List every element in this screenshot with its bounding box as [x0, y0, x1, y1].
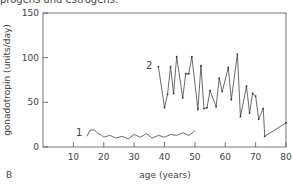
series-annotation: 2 [146, 60, 152, 71]
data-point [255, 95, 257, 97]
x-tick-label: 40 [159, 152, 171, 162]
data-point [188, 73, 190, 75]
data-point [185, 73, 187, 75]
x-tick-label: 50 [189, 152, 201, 162]
data-point [252, 93, 254, 95]
data-point [164, 107, 166, 109]
x-tick-label: 70 [250, 152, 262, 162]
series-annotation: 1 [76, 127, 82, 138]
header-fragment: progens and estrogens. [0, 0, 118, 5]
data-point [197, 109, 199, 111]
series-1-line [87, 130, 195, 139]
axes: 0501001501020304050607080 [22, 8, 292, 162]
x-tick-label: 20 [98, 152, 110, 162]
chart-figure: progens and estrogens. 05010015010203040… [0, 0, 292, 184]
data-point [240, 116, 242, 118]
data-point [264, 135, 266, 137]
data-point [215, 106, 217, 108]
data-point [230, 99, 232, 101]
data-point [200, 65, 202, 67]
x-tick-label: 30 [128, 152, 140, 162]
data-point [246, 85, 248, 87]
data-point [182, 97, 184, 99]
y-tick-label: 0 [33, 142, 39, 152]
data-point [249, 112, 251, 114]
data-point [285, 122, 287, 124]
data-point [262, 108, 264, 110]
data-point [227, 67, 229, 69]
y-tick-label: 100 [22, 53, 39, 63]
data-point [209, 90, 211, 92]
y-tick-label: 50 [28, 97, 40, 107]
data-point [173, 93, 175, 95]
panel-label: B [6, 170, 12, 180]
data-point [170, 66, 172, 68]
x-tick-label: 80 [280, 152, 292, 162]
data-point [206, 107, 208, 109]
data-point [218, 77, 220, 79]
data-point [191, 56, 193, 58]
line-chart: progens and estrogens. 05010015010203040… [0, 0, 292, 184]
data-point [167, 93, 169, 95]
y-axis-label: gonadotropin (units/day) [2, 24, 12, 136]
data-point [258, 118, 260, 120]
x-tick-label: 60 [220, 152, 232, 162]
data-point [221, 91, 223, 93]
data-point [203, 108, 205, 110]
data-point [237, 53, 239, 55]
series-2-line [158, 54, 286, 136]
data-series: 12 [76, 53, 287, 139]
data-point [176, 56, 178, 58]
x-axis-label: age (years) [139, 170, 190, 180]
y-tick-label: 150 [22, 8, 39, 18]
x-tick-label: 10 [68, 152, 80, 162]
data-point [158, 66, 160, 68]
